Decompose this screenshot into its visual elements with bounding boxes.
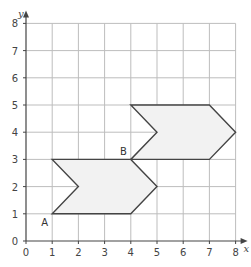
y-tick-label: 6 — [12, 73, 18, 84]
y-tick-label: 8 — [12, 18, 18, 29]
y-tick-label: 1 — [12, 209, 18, 220]
y-tick-label: 4 — [12, 127, 18, 138]
x-tick-label: 3 — [101, 247, 107, 258]
point-label-a: A — [41, 217, 48, 228]
y-axis-arrow-icon — [23, 10, 29, 17]
x-tick-label: 6 — [180, 247, 186, 258]
x-tick-label: 7 — [206, 247, 212, 258]
x-tick-label: 8 — [232, 247, 238, 258]
y-tick-label: 2 — [12, 182, 18, 193]
x-tick-label: 4 — [128, 247, 134, 258]
shapes — [52, 105, 235, 214]
y-tick-label: 7 — [12, 46, 18, 57]
x-axis-label: x — [244, 243, 250, 254]
y-tick-label: 0 — [12, 236, 18, 247]
x-tick-label: 0 — [23, 247, 29, 258]
y-tick-label: 5 — [12, 100, 18, 111]
coordinate-grid-diagram: xy 012345678012345678 AB — [0, 0, 251, 267]
y-axis-label: y — [17, 8, 24, 19]
x-tick-label: 1 — [49, 247, 55, 258]
point-label-b: B — [120, 146, 127, 157]
y-tick-label: 3 — [12, 154, 18, 165]
x-tick-label: 5 — [154, 247, 160, 258]
x-tick-label: 2 — [75, 247, 81, 258]
